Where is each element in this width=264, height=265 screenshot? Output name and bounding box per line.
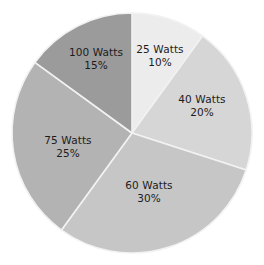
pie-slice-label: 75 Watts25% [44, 134, 91, 159]
pie-slice-label: 60 Watts30% [125, 179, 172, 204]
pie-slice-label-name: 75 Watts [44, 134, 91, 147]
pie-slice-label: 25 Watts10% [136, 43, 183, 68]
pie-chart-canvas [0, 0, 264, 265]
pie-slice-label-name: 60 Watts [125, 179, 172, 192]
pie-slice-label-name: 100 Watts [69, 46, 123, 59]
pie-slice-label: 100 Watts15% [69, 46, 123, 71]
pie-slice-label-percent: 15% [69, 58, 123, 71]
pie-slice-label: 40 Watts20% [178, 93, 225, 118]
pie-slice-label-percent: 10% [136, 55, 183, 68]
pie-slice-label-name: 25 Watts [136, 43, 183, 56]
pie-slice-label-percent: 25% [44, 146, 91, 159]
pie-chart-figure: 25 Watts10%40 Watts20%60 Watts30%75 Watt… [0, 0, 264, 265]
pie-slice-label-percent: 30% [125, 191, 172, 204]
pie-slice-label-name: 40 Watts [178, 93, 225, 106]
pie-slice-label-percent: 20% [178, 105, 225, 118]
